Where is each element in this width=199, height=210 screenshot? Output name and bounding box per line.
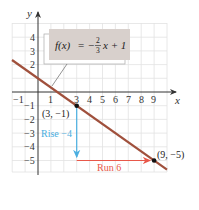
svg-text:3: 3 (30, 46, 35, 57)
svg-text:1: 1 (48, 94, 53, 105)
point-label-9-neg5: (9, −5) (157, 149, 184, 161)
leader-line (52, 64, 67, 86)
svg-text:2: 2 (30, 59, 35, 70)
svg-text:2: 2 (96, 36, 100, 45)
svg-text:5: 5 (100, 94, 105, 105)
svg-text:6: 6 (113, 94, 118, 105)
y-axis-label: y (26, 7, 32, 19)
y-tick-labels: 4 3 2 −1 −2 −3 −4 −5 (24, 32, 35, 166)
svg-text:−2: −2 (24, 114, 35, 125)
svg-text:9: 9 (151, 94, 156, 105)
svg-text:3: 3 (96, 46, 100, 55)
point-3-neg1 (74, 103, 79, 108)
svg-text:=: = (78, 39, 84, 51)
svg-text:8: 8 (139, 94, 144, 105)
svg-text:−1: −1 (13, 94, 24, 105)
svg-text:−1: −1 (24, 100, 35, 111)
point-9-neg5 (152, 158, 157, 163)
svg-text:−4: −4 (24, 141, 35, 152)
svg-text:x + 1: x + 1 (102, 39, 126, 51)
svg-text:f(x): f(x) (55, 39, 71, 52)
svg-text:−: − (88, 39, 94, 51)
svg-text:−5: −5 (24, 155, 35, 166)
point-label-3-neg1: (3, −1) (42, 108, 69, 120)
svg-text:4: 4 (30, 32, 35, 43)
rise-label: Rise −4 (41, 128, 72, 139)
function-graph: x y −1 1 3 4 5 6 7 8 9 4 3 2 −1 −2 −3 −4… (0, 0, 199, 210)
run-label: Run 6 (97, 162, 121, 173)
svg-text:4: 4 (87, 94, 92, 105)
svg-text:7: 7 (126, 94, 131, 105)
svg-text:−3: −3 (24, 128, 35, 139)
x-axis-label: x (174, 94, 180, 106)
